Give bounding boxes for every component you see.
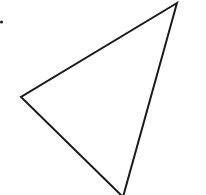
diagram-canvas: [0, 0, 206, 195]
stray-dot-mark: [0, 21, 3, 24]
triangle-shape: [21, 3, 177, 195]
triangle-diagram: [0, 0, 206, 195]
